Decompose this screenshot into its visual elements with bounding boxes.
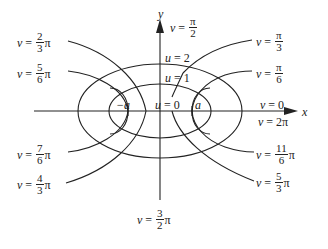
label-v-pi3: v = π3 — [256, 30, 284, 53]
label-v-pi2: v = π2 — [170, 16, 198, 39]
label-u0: u = 0 — [155, 99, 180, 111]
label-v-4pi3: v = 43π — [17, 173, 51, 196]
label-v-2pi3: v = 23π — [17, 31, 51, 54]
label-v-3pi2: v = 32π — [137, 208, 171, 231]
x-axis-label: x — [302, 106, 307, 118]
label-u2: u = 2 — [165, 52, 190, 64]
label-v2pi: v = 2π — [258, 116, 288, 128]
label-u1: u 1= 1 — [165, 72, 190, 84]
label-v0: v = 0 — [260, 99, 284, 111]
focus-label-left: −a — [116, 99, 130, 111]
y-axis-arrow-icon — [156, 19, 164, 33]
label-v-11pi6: v = 116π — [256, 143, 295, 166]
label-v-5pi3: v = 53π — [256, 171, 290, 194]
y-axis-label: y — [158, 8, 163, 20]
x-axis-arrow-icon — [284, 107, 298, 115]
focus-label-right: a — [195, 99, 201, 111]
label-v-pi6: v = π6 — [256, 62, 284, 85]
label-v-5pi6: v = 56π — [17, 62, 51, 85]
label-v-7pi6: v = 76π — [17, 143, 51, 166]
curve-v-5pi3 — [172, 111, 254, 181]
